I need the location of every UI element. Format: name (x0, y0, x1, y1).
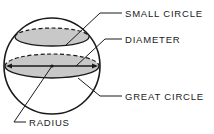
diameter-label: DIAMETER (125, 35, 181, 45)
small-circle (15, 28, 89, 46)
sphere-diagram (0, 0, 214, 134)
great-circle-leader (78, 78, 122, 96)
great-circle-label: GREAT CIRCLE (125, 92, 204, 102)
radius-label: RADIUS (29, 118, 70, 128)
small-circle-label: SMALL CIRCLE (125, 9, 203, 19)
